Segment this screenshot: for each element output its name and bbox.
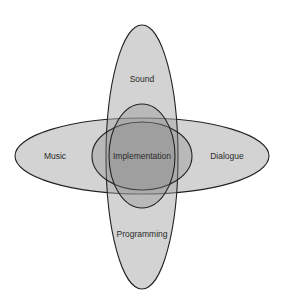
label-dialogue: Dialogue [210,151,244,161]
label-music: Music [44,151,67,161]
venn-diagram: Sound Music Dialogue Implementation Prog… [0,0,286,306]
label-sound: Sound [130,74,155,84]
label-implementation: Implementation [113,151,171,161]
label-programming: Programming [116,229,167,239]
